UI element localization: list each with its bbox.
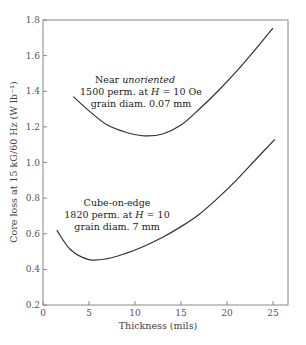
annotation-lower-line2a: 1820 perm. at [64, 209, 135, 220]
annotation-lower-line2b: = 10 [144, 209, 170, 220]
annotation-lower-line3: grain diam. 7 mm [74, 221, 159, 232]
y-tick-label: 1.2 [26, 122, 40, 132]
annotation-upper-line1a: Near [95, 74, 122, 85]
y-tick-label: 0.6 [26, 229, 41, 239]
x-tick-label: 10 [129, 308, 141, 318]
annotation-cube-on-edge: Cube-on-edge 1820 perm. at H = 10 grain … [64, 197, 169, 232]
svg-text:1500 perm. at H = 10 Oe: 1500 perm. at H = 10 Oe [80, 86, 202, 97]
plot-frame [43, 20, 288, 305]
annotation-near-unoriented: Near unoriented 1500 perm. at H = 10 Oe … [80, 74, 202, 109]
y-tick-label: 0.4 [26, 264, 41, 274]
annotation-upper-line3: grain diam. 0.07 mm [91, 98, 191, 109]
y-axis-title: Core loss at 15 kG/60 Hz (W lb⁻¹) [8, 81, 19, 242]
y-tick-label: 1.6 [26, 51, 41, 61]
svg-text:Near unoriented: Near unoriented [95, 74, 175, 85]
core-loss-chart: 0.20.40.60.81.01.21.41.61.80510152025 Co… [0, 0, 306, 345]
annotation-upper-line2b: = 10 Oe [159, 86, 202, 97]
y-tick-label: 0.8 [26, 193, 41, 203]
annotation-upper-line2a: 1500 perm. at [80, 86, 151, 97]
y-tick-label: 1.8 [26, 15, 41, 25]
x-tick-label: 0 [40, 308, 46, 318]
x-tick-label: 20 [221, 308, 233, 318]
y-tick-label: 0.2 [26, 300, 40, 310]
annotation-upper-line1b: unoriented [122, 74, 175, 85]
x-tick-label: 5 [86, 308, 92, 318]
y-tick-label: 1.4 [26, 86, 41, 96]
y-tick-label: 1.0 [26, 158, 41, 168]
svg-text:1820 perm. at H = 10: 1820 perm. at H = 10 [64, 209, 169, 220]
x-axis-title: Thickness (mils) [119, 320, 197, 331]
x-tick-label: 25 [267, 308, 279, 318]
x-tick-label: 15 [175, 308, 187, 318]
annotation-lower-line1: Cube-on-edge [84, 197, 151, 208]
